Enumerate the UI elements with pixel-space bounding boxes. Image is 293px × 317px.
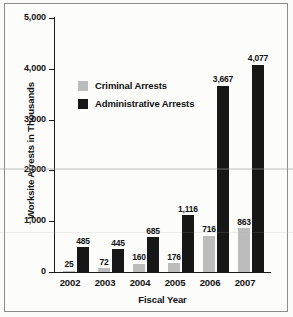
bar-value-criminal-2003: 72 [99,258,108,267]
x-axis-category-2007: 2007 [225,277,265,288]
bar-administrative-2007: 4,077 [252,65,264,272]
bar-value-administrative-2002: 485 [76,237,90,246]
bar-value-administrative-2003: 445 [111,239,125,248]
bar-value-administrative-2006: 3,667 [213,75,233,84]
y-axis-tick-3000 [49,120,54,121]
y-axis-tick-label-5000: 5,000 [24,13,46,22]
bar-value-criminal-2005: 176 [167,253,181,262]
bar-criminal-2003: 72 [98,268,110,272]
legend-item-criminal: Criminal Arrests [78,80,194,91]
x-axis-category-2003: 2003 [85,277,125,288]
bar-criminal-2006: 716 [203,236,215,272]
y-axis-title: Worksite Arrests in Thousands [25,66,36,236]
x-axis-category-2005: 2005 [155,277,195,288]
plot-area: 5,000 4,000 3,000 2,000 1,000 0 Worksite… [0,0,293,317]
y-axis-line [54,17,55,273]
y-axis-tick-2000 [49,170,54,171]
legend-label-criminal: Criminal Arrests [95,80,167,91]
bar-administrative-2002: 485 [77,247,89,272]
x-axis-category-2002: 2002 [50,277,90,288]
y-axis-tick-label-0: 0 [41,267,46,276]
x-axis-title: Fiscal Year [54,294,271,305]
bar-administrative-2004: 685 [147,237,159,272]
bar-value-criminal-2004: 160 [132,253,146,262]
y-axis-tick-5000 [49,18,54,19]
y-axis-tick-0 [49,272,54,273]
chart-legend: Criminal Arrests Administrative Arrests [78,80,194,116]
legend-swatch-criminal-icon [78,81,88,91]
y-axis-tick-1000 [49,221,54,222]
legend-label-administrative: Administrative Arrests [95,98,194,109]
bar-value-criminal-2007: 863 [237,218,251,227]
bar-administrative-2003: 445 [112,249,124,272]
bar-value-administrative-2007: 4,077 [248,54,268,63]
bar-value-criminal-2002: 25 [64,260,73,269]
bar-administrative-2005: 1,116 [182,215,194,272]
bar-criminal-2007: 863 [238,228,250,272]
worksite-arrests-bar-chart: 5,000 4,000 3,000 2,000 1,000 0 Worksite… [0,0,293,317]
legend-swatch-administrative-icon [78,99,88,109]
bar-criminal-2005: 176 [168,263,180,272]
bar-value-administrative-2004: 685 [146,227,160,236]
bar-criminal-2004: 160 [133,264,145,272]
bar-value-administrative-2005: 1,116 [178,205,198,214]
x-axis-category-2006: 2006 [190,277,230,288]
bar-value-criminal-2006: 716 [202,225,216,234]
x-axis-line [54,272,271,273]
bar-administrative-2006: 3,667 [217,86,229,272]
y-axis-tick-4000 [49,69,54,70]
bar-criminal-2002: 25 [63,271,75,272]
legend-item-administrative: Administrative Arrests [78,98,194,109]
x-axis-category-2004: 2004 [120,277,160,288]
